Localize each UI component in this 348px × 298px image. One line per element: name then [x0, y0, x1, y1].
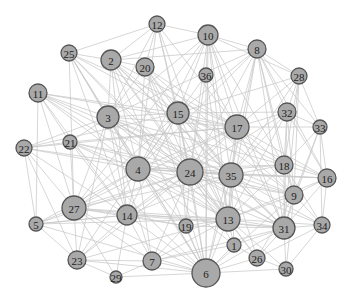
- node-label: 15: [173, 108, 185, 120]
- node-29[interactable]: 29: [110, 271, 122, 284]
- node-label: 25: [64, 48, 76, 60]
- node-2[interactable]: 2: [101, 50, 121, 70]
- node-label: 33: [315, 122, 327, 134]
- node-label: 6: [203, 268, 209, 280]
- edge-22-5: [24, 148, 36, 224]
- node-18[interactable]: 18: [275, 156, 293, 174]
- node-13[interactable]: 13: [216, 207, 240, 231]
- node-label: 30: [281, 264, 293, 276]
- network-graph: 1225220108362811315173233222142435181692…: [0, 0, 348, 298]
- network-graph-canvas: 1225220108362811315173233222142435181692…: [0, 0, 348, 298]
- edge-11-5: [36, 93, 38, 224]
- node-label: 31: [279, 223, 290, 235]
- node-label: 34: [317, 220, 329, 232]
- node-label: 4: [135, 164, 141, 176]
- node-label: 13: [223, 214, 235, 226]
- node-label: 19: [181, 221, 193, 233]
- node-label: 35: [226, 170, 238, 182]
- node-label: 24: [185, 167, 197, 179]
- node-8[interactable]: 8: [248, 40, 266, 58]
- node-label: 12: [152, 19, 163, 31]
- node-label: 21: [65, 137, 76, 149]
- node-24[interactable]: 24: [177, 159, 203, 185]
- node-34[interactable]: 34: [314, 217, 330, 233]
- node-label: 2: [108, 55, 114, 67]
- node-32[interactable]: 32: [278, 103, 296, 121]
- node-33[interactable]: 33: [313, 120, 327, 134]
- node-label: 22: [19, 143, 30, 155]
- node-26[interactable]: 26: [249, 250, 265, 266]
- node-label: 28: [294, 71, 306, 83]
- node-label: 14: [122, 210, 134, 222]
- node-label: 7: [149, 256, 155, 268]
- node-label: 3: [105, 112, 111, 124]
- node-label: 8: [254, 44, 260, 56]
- node-15[interactable]: 15: [167, 102, 189, 124]
- node-9[interactable]: 9: [285, 186, 303, 204]
- node-label: 20: [140, 62, 152, 74]
- node-35[interactable]: 35: [219, 163, 243, 187]
- node-label: 10: [203, 30, 215, 42]
- node-23[interactable]: 23: [68, 251, 86, 269]
- node-21[interactable]: 21: [63, 135, 77, 149]
- node-5[interactable]: 5: [29, 217, 43, 231]
- node-14[interactable]: 14: [117, 205, 137, 225]
- node-label: 16: [322, 173, 334, 185]
- node-28[interactable]: 28: [291, 68, 307, 84]
- node-label: 1: [231, 240, 237, 252]
- node-27[interactable]: 27: [62, 196, 86, 220]
- node-label: 27: [69, 203, 81, 215]
- node-19[interactable]: 19: [179, 219, 193, 233]
- node-3[interactable]: 3: [97, 106, 119, 128]
- node-36[interactable]: 36: [199, 68, 213, 82]
- node-11[interactable]: 11: [29, 84, 47, 102]
- node-17[interactable]: 17: [225, 115, 249, 139]
- node-label: 11: [33, 88, 44, 100]
- edge-23-6: [77, 260, 206, 273]
- node-4[interactable]: 4: [126, 157, 150, 181]
- node-label: 9: [291, 190, 297, 202]
- node-1[interactable]: 1: [227, 238, 241, 252]
- node-label: 17: [232, 122, 244, 134]
- node-31[interactable]: 31: [273, 217, 295, 239]
- node-22[interactable]: 22: [16, 140, 32, 156]
- node-label: 18: [279, 160, 291, 172]
- node-label: 26: [252, 253, 264, 265]
- node-25[interactable]: 25: [61, 45, 77, 61]
- node-label: 23: [72, 255, 84, 267]
- node-12[interactable]: 12: [149, 16, 165, 32]
- node-16[interactable]: 16: [318, 169, 336, 187]
- node-label: 36: [201, 70, 213, 82]
- node-10[interactable]: 10: [198, 25, 218, 45]
- node-20[interactable]: 20: [136, 58, 154, 76]
- node-30[interactable]: 30: [279, 262, 293, 276]
- node-label: 29: [111, 272, 123, 284]
- node-label: 32: [282, 107, 293, 119]
- node-6[interactable]: 6: [192, 259, 220, 287]
- node-7[interactable]: 7: [143, 252, 161, 270]
- node-label: 5: [33, 219, 39, 231]
